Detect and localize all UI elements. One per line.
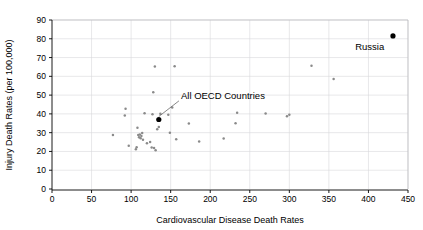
x-tick-label: 200	[203, 194, 217, 204]
data-point	[151, 113, 154, 116]
data-point	[167, 114, 170, 117]
y-tick-label: 40	[37, 109, 47, 119]
data-point	[152, 91, 155, 94]
annotations-group: RussiaAll OECD Countries	[159, 41, 385, 116]
y-tick-label: 30	[37, 128, 47, 138]
x-tick-label: 150	[164, 194, 178, 204]
data-point	[222, 137, 225, 140]
tickmarks-group	[49, 20, 408, 193]
data-point	[332, 78, 335, 81]
data-point	[158, 126, 161, 128]
data-point	[188, 122, 191, 125]
data-point	[236, 112, 239, 115]
data-point	[135, 146, 138, 149]
y-tick-label: 20	[37, 146, 47, 156]
data-point	[149, 141, 152, 144]
y-tick-labels: 0102030405060708090	[37, 15, 47, 194]
data-point	[169, 131, 172, 134]
data-point	[136, 127, 139, 130]
x-axis-title: Cardiovascular Disease Death Rates	[156, 215, 304, 225]
x-tick-label: 50	[87, 194, 97, 204]
x-tick-label: 0	[50, 194, 55, 204]
data-point	[140, 135, 143, 138]
data-point	[146, 142, 149, 145]
x-tick-label: 400	[361, 194, 375, 204]
data-point	[150, 146, 153, 149]
annotation-label: All OECD Countries	[181, 90, 265, 101]
data-point	[154, 149, 157, 152]
y-axis-title: Injury Death Rates (per 100,000)	[4, 39, 14, 170]
data-point	[143, 112, 146, 115]
data-point	[156, 128, 159, 131]
data-point	[234, 122, 237, 125]
annotation-label: Russia	[355, 41, 385, 52]
data-point	[127, 145, 130, 148]
y-tick-label: 50	[37, 90, 47, 100]
x-tick-label: 100	[124, 194, 138, 204]
y-tick-label: 90	[37, 15, 47, 25]
data-point	[153, 147, 156, 150]
y-tick-label: 0	[41, 184, 46, 194]
scatter-plot-figure: 050100150200250300350400450 010203040506…	[0, 0, 423, 230]
data-point	[264, 112, 267, 115]
x-tick-label: 350	[322, 194, 336, 204]
data-point	[141, 132, 144, 135]
data-point	[198, 140, 201, 143]
y-tick-label: 10	[37, 165, 47, 175]
data-point	[173, 65, 176, 68]
data-point	[175, 138, 178, 141]
data-point	[124, 108, 127, 111]
data-point	[154, 65, 157, 68]
x-tick-label: 250	[243, 194, 257, 204]
chart-canvas: 050100150200250300350400450 010203040506…	[0, 0, 423, 230]
data-point	[139, 137, 142, 140]
data-points-group	[112, 64, 335, 151]
data-point	[124, 114, 127, 117]
x-tick-label: 450	[401, 194, 415, 204]
x-tick-label: 300	[282, 194, 296, 204]
data-point	[310, 64, 313, 67]
y-tick-label: 60	[37, 71, 47, 81]
highlight-data-point	[390, 33, 395, 38]
x-tick-labels: 050100150200250300350400450	[50, 194, 416, 204]
highlight-data-point	[156, 117, 161, 122]
data-point	[112, 134, 115, 137]
data-point	[288, 114, 291, 117]
data-point	[286, 115, 289, 118]
data-point	[142, 139, 145, 142]
y-tick-label: 80	[37, 34, 47, 44]
y-tick-label: 70	[37, 53, 47, 63]
